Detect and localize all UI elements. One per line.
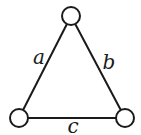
node-bottom-right bbox=[116, 109, 134, 127]
edge-label-b: b bbox=[103, 50, 116, 74]
edge-label-a: a bbox=[33, 45, 45, 69]
edge-label-c: c bbox=[67, 114, 78, 135]
edge-a bbox=[19, 16, 71, 118]
edge-b bbox=[71, 16, 125, 118]
node-bottom-left bbox=[10, 109, 28, 127]
triangle-diagram: a b c bbox=[0, 0, 141, 135]
node-top bbox=[62, 7, 80, 25]
